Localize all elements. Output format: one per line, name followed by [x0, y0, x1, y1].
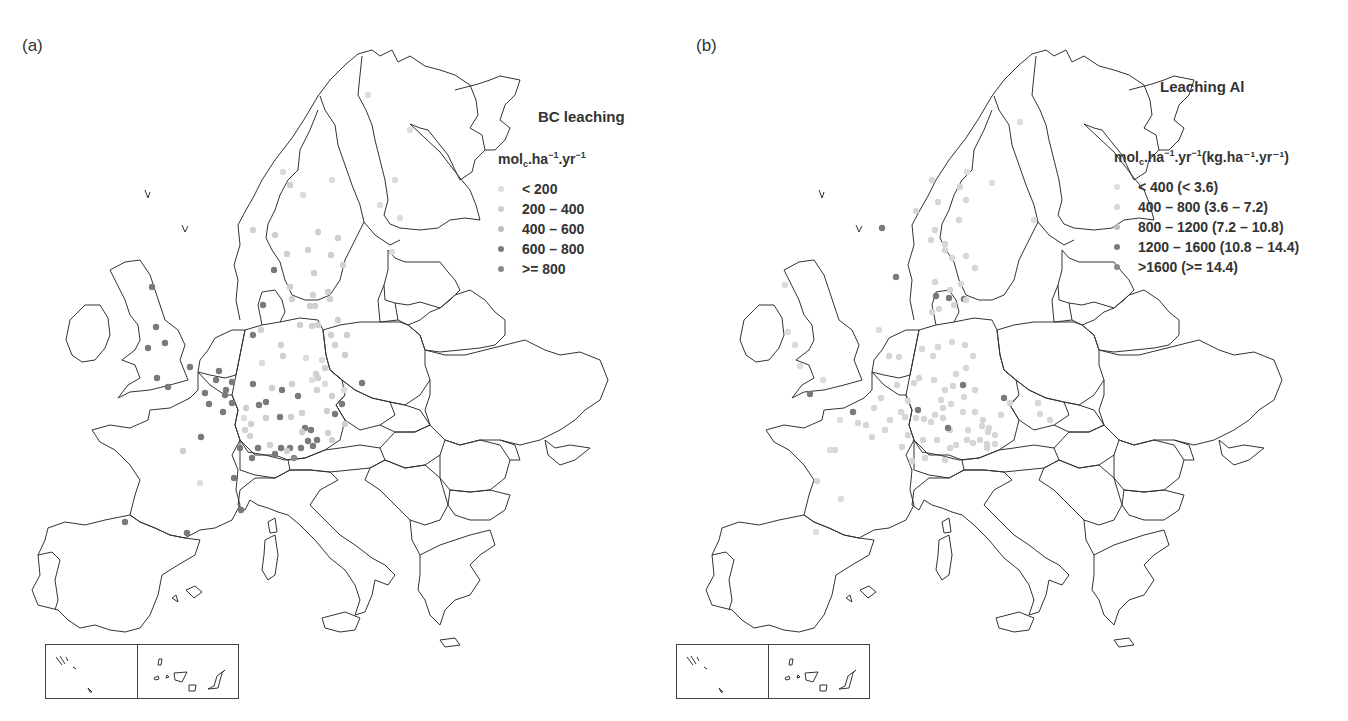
- site-dot: [272, 232, 278, 238]
- legend-dot-icon: [498, 246, 504, 252]
- site-dot: [288, 414, 294, 420]
- site-dot: [303, 355, 309, 361]
- site-dot: [985, 429, 991, 435]
- site-dot: [1007, 400, 1013, 406]
- site-dot: [299, 410, 305, 416]
- site-dot: [963, 253, 969, 259]
- site-dot: [814, 478, 820, 484]
- site-dot: [272, 451, 278, 457]
- site-dot: [122, 519, 128, 525]
- site-dot: [328, 332, 334, 338]
- site-dot: [250, 227, 256, 233]
- site-dot: [915, 407, 921, 413]
- site-dot: [932, 412, 938, 418]
- site-dot: [942, 457, 948, 463]
- site-dot: [893, 274, 899, 280]
- site-dot: [938, 397, 944, 403]
- site-dot: [963, 197, 969, 203]
- site-dot: [942, 387, 948, 393]
- site-dot: [813, 529, 819, 535]
- site-dot: [922, 455, 928, 461]
- site-dot: [241, 415, 247, 421]
- site-dot: [850, 409, 856, 415]
- site-dot: [311, 270, 317, 276]
- site-dot: [278, 342, 284, 348]
- site-dot: [247, 433, 253, 439]
- legend-dot-icon: [498, 266, 504, 272]
- site-dot: [992, 432, 998, 438]
- site-dot: [297, 322, 303, 328]
- legend-dot-icon: [1114, 184, 1120, 190]
- site-dot: [277, 414, 283, 420]
- site-dot: [989, 180, 995, 186]
- site-dot: [879, 225, 885, 231]
- site-dot: [260, 302, 266, 308]
- site-dot: [1047, 417, 1053, 423]
- site-dot: [287, 284, 293, 290]
- site-dot: [295, 393, 301, 399]
- site-dot: [950, 383, 956, 389]
- site-dot: [931, 377, 937, 383]
- site-dot: [863, 422, 869, 428]
- legend-label: 400 – 600: [522, 221, 584, 237]
- site-dot: [250, 381, 256, 387]
- site-dot: [933, 293, 939, 299]
- site-dot: [928, 419, 934, 425]
- site-dot: [948, 401, 954, 407]
- site-dot: [329, 437, 335, 443]
- site-dot: [820, 377, 826, 383]
- legend-label: 200 – 400: [522, 201, 584, 217]
- panel-bc-leaching: (a) BC leaching molc.ha−1.yr−1 < 200200 …: [0, 0, 674, 721]
- site-dot: [315, 229, 321, 235]
- site-dot: [377, 202, 383, 208]
- site-dot: [229, 400, 235, 406]
- site-dot: [238, 507, 244, 513]
- site-dot: [222, 392, 228, 398]
- site-dot: [256, 402, 262, 408]
- legend-dot-icon: [498, 226, 504, 232]
- panel-leaching-al: (b) Leaching Al molc.ha−1.yr−1(kg.ha⁻¹.y…: [674, 0, 1348, 721]
- legend-item: < 400 (< 3.6): [1114, 177, 1299, 197]
- site-dot: [947, 287, 953, 293]
- inset-map: [45, 644, 239, 699]
- site-dot: [878, 395, 884, 401]
- site-dot: [887, 417, 893, 423]
- site-dot: [940, 415, 946, 421]
- site-dot: [154, 375, 160, 381]
- site-dot: [871, 405, 877, 411]
- site-dot: [315, 375, 321, 381]
- site-dot: [162, 340, 168, 346]
- legend-label: 800 – 1200 (7.2 – 10.8): [1138, 219, 1284, 235]
- legend-item: 400 – 800 (3.6 – 7.2): [1114, 197, 1299, 217]
- site-dot: [284, 448, 290, 454]
- legend-unit: molc.ha−1.yr−1(kg.ha⁻¹.yr⁻¹): [1114, 148, 1299, 167]
- site-dot: [951, 302, 957, 308]
- site-dot: [876, 327, 882, 333]
- site-dot: [339, 401, 345, 407]
- site-dot: [932, 227, 938, 233]
- site-dot: [928, 237, 934, 243]
- site-dot: [963, 297, 969, 303]
- site-dot: [970, 440, 976, 446]
- site-dot: [242, 427, 248, 433]
- site-dot: [935, 199, 941, 205]
- site-dot: [389, 249, 395, 255]
- site-dot: [308, 427, 314, 433]
- legend-dot-icon: [498, 186, 504, 192]
- site-dot: [909, 458, 915, 464]
- legend-dot-icon: [1114, 244, 1120, 250]
- site-dot: [962, 342, 968, 348]
- site-dot: [145, 345, 151, 351]
- legend-label: >1600 (>= 14.4): [1138, 259, 1238, 275]
- site-dot: [916, 375, 922, 381]
- legend: molc.ha−1.yr−1 < 200200 – 400400 – 60060…: [498, 150, 586, 279]
- site-dot: [899, 444, 905, 450]
- site-dot: [934, 437, 940, 443]
- site-dot: [329, 393, 335, 399]
- site-dot: [249, 455, 255, 461]
- site-dot: [341, 387, 347, 393]
- site-dot: [153, 324, 159, 330]
- site-dot: [187, 364, 193, 370]
- site-dot: [328, 252, 334, 258]
- site-dot: [220, 409, 226, 415]
